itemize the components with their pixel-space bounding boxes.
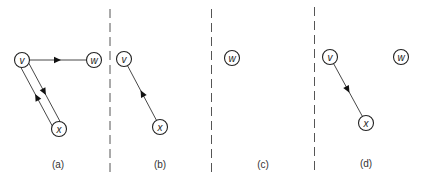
node-a-x: x — [52, 122, 67, 137]
node-label: x — [56, 124, 63, 135]
edge-d-v-to-x — [334, 64, 363, 117]
graph-diagram: vwxvxwvwx (a) (b) (c) (d) — [0, 0, 424, 181]
edge-a-x-to-v — [21, 67, 52, 125]
node-c-w: w — [225, 51, 240, 66]
node-label: w — [90, 55, 98, 66]
edge-a-v-to-w — [30, 57, 87, 63]
node-label: x — [363, 118, 370, 129]
node-a-v: v — [15, 53, 30, 68]
node-b-x: x — [153, 120, 168, 135]
node-label: w — [397, 52, 405, 63]
edge-a-v-to-x — [29, 63, 60, 121]
node-a-w: w — [87, 53, 102, 68]
panel-label-b: (b) — [154, 159, 166, 170]
node-d-x: x — [359, 116, 374, 131]
node-d-w: w — [394, 50, 409, 65]
panel-label-a: (a) — [52, 159, 64, 170]
node-label: w — [228, 53, 236, 64]
arrowhead-icon — [54, 57, 61, 63]
panel-label-c: (c) — [257, 159, 269, 170]
node-label: x — [157, 122, 164, 133]
node-d-v: v — [323, 50, 338, 65]
panel-label-d: (d) — [360, 158, 372, 169]
edge-b-x-to-v — [128, 66, 157, 121]
node-b-v: v — [117, 52, 132, 67]
